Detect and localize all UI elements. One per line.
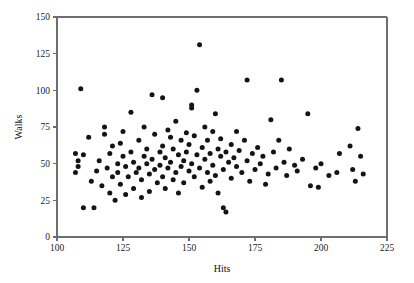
data-point bbox=[239, 170, 244, 175]
x-tick-label: 150 bbox=[182, 243, 197, 253]
data-point bbox=[128, 110, 133, 115]
data-point bbox=[258, 161, 263, 166]
data-point bbox=[192, 174, 197, 179]
data-point bbox=[247, 179, 252, 184]
data-point bbox=[94, 169, 99, 174]
data-point bbox=[144, 161, 149, 166]
data-point bbox=[187, 169, 192, 174]
data-point bbox=[279, 78, 284, 83]
data-point bbox=[216, 191, 221, 196]
data-point bbox=[266, 171, 271, 176]
data-point bbox=[326, 173, 331, 178]
data-point bbox=[271, 149, 276, 154]
data-point bbox=[139, 195, 144, 200]
data-point bbox=[348, 144, 353, 149]
data-point bbox=[113, 198, 118, 203]
data-point bbox=[181, 180, 186, 185]
data-point bbox=[184, 130, 189, 135]
y-tick-label: 0 bbox=[45, 232, 50, 242]
data-point bbox=[160, 95, 165, 100]
data-point bbox=[73, 151, 78, 156]
data-point bbox=[218, 154, 223, 159]
data-point bbox=[216, 147, 221, 152]
data-point bbox=[136, 166, 141, 171]
y-axis-title: Walks bbox=[13, 115, 24, 140]
data-point bbox=[287, 147, 292, 152]
data-point bbox=[147, 171, 152, 176]
data-point bbox=[118, 182, 123, 187]
data-point bbox=[205, 138, 210, 143]
data-point bbox=[91, 205, 96, 210]
data-point bbox=[284, 173, 289, 178]
data-point bbox=[213, 173, 218, 178]
x-tick-label: 100 bbox=[50, 243, 65, 253]
data-point bbox=[89, 179, 94, 184]
data-point bbox=[274, 166, 279, 171]
data-point bbox=[208, 179, 213, 184]
scatter-plot-figure: 0255075100125150100125150175200225 Hits … bbox=[0, 0, 414, 283]
data-point bbox=[282, 160, 287, 165]
data-point bbox=[350, 167, 355, 172]
data-point bbox=[313, 166, 318, 171]
data-point bbox=[197, 166, 202, 171]
data-point bbox=[97, 158, 102, 163]
data-point bbox=[210, 129, 215, 134]
data-point bbox=[121, 154, 126, 159]
data-point bbox=[223, 210, 228, 215]
data-point bbox=[184, 149, 189, 154]
data-point bbox=[152, 132, 157, 137]
data-point bbox=[168, 160, 173, 165]
data-point bbox=[176, 152, 181, 157]
data-point bbox=[229, 176, 234, 181]
data-point bbox=[200, 145, 205, 150]
data-point bbox=[163, 155, 168, 160]
data-point bbox=[231, 155, 236, 160]
data-point bbox=[171, 177, 176, 182]
x-tick-label: 225 bbox=[380, 243, 395, 253]
x-tick-label: 200 bbox=[314, 243, 329, 253]
data-point bbox=[171, 147, 176, 152]
data-point bbox=[128, 149, 133, 154]
data-point bbox=[229, 142, 234, 147]
data-point bbox=[144, 147, 149, 152]
data-point bbox=[197, 42, 202, 47]
data-point bbox=[157, 149, 162, 154]
data-point bbox=[218, 136, 223, 141]
data-point bbox=[139, 177, 144, 182]
data-point bbox=[155, 180, 160, 185]
data-point bbox=[260, 154, 265, 159]
data-point bbox=[213, 111, 218, 116]
data-point bbox=[353, 179, 358, 184]
data-point bbox=[250, 151, 255, 156]
data-point bbox=[179, 164, 184, 169]
data-point bbox=[202, 125, 207, 130]
data-point bbox=[276, 138, 281, 143]
data-point bbox=[226, 160, 231, 165]
data-point bbox=[200, 185, 205, 190]
data-point bbox=[189, 103, 194, 108]
data-point bbox=[150, 92, 155, 97]
data-point bbox=[189, 161, 194, 166]
data-point bbox=[152, 167, 157, 172]
data-point bbox=[334, 170, 339, 175]
data-point bbox=[223, 149, 228, 154]
data-point bbox=[150, 157, 155, 162]
data-point bbox=[173, 170, 178, 175]
data-point bbox=[210, 163, 215, 168]
y-tick-label: 150 bbox=[36, 12, 51, 22]
x-tick-label: 175 bbox=[248, 243, 263, 253]
y-tick-label: 125 bbox=[36, 49, 51, 59]
tick-labels-group: 0255075100125150100125150175200225 bbox=[36, 12, 395, 253]
data-point bbox=[181, 158, 186, 163]
data-point bbox=[221, 167, 226, 172]
data-point bbox=[319, 161, 324, 166]
data-point bbox=[292, 163, 297, 168]
data-point bbox=[221, 205, 226, 210]
data-point bbox=[263, 182, 268, 187]
data-point bbox=[160, 174, 165, 179]
data-point bbox=[78, 86, 83, 91]
data-point bbox=[86, 135, 91, 140]
data-point bbox=[245, 78, 250, 83]
data-point bbox=[136, 138, 141, 143]
data-point bbox=[187, 142, 192, 147]
